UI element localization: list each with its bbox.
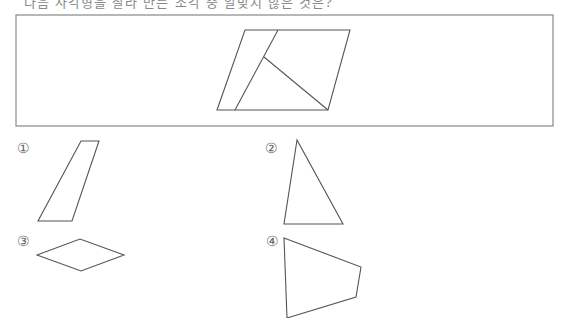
option-2-shape[interactable] (284, 140, 343, 224)
option-4-label[interactable]: ④ (266, 233, 279, 249)
option-3-shape[interactable] (37, 239, 124, 271)
main-parallelogram (217, 30, 350, 110)
option-3-label[interactable]: ③ (17, 233, 30, 249)
cut-line-1 (235, 30, 278, 110)
option-1-shape[interactable] (38, 141, 99, 221)
figure-canvas (0, 0, 562, 318)
option-1-label[interactable]: ① (17, 140, 30, 156)
option-2-label[interactable]: ② (265, 140, 278, 156)
cut-line-2 (264, 57, 328, 110)
option-4-shape[interactable] (284, 238, 361, 318)
figure-frame (16, 15, 553, 126)
